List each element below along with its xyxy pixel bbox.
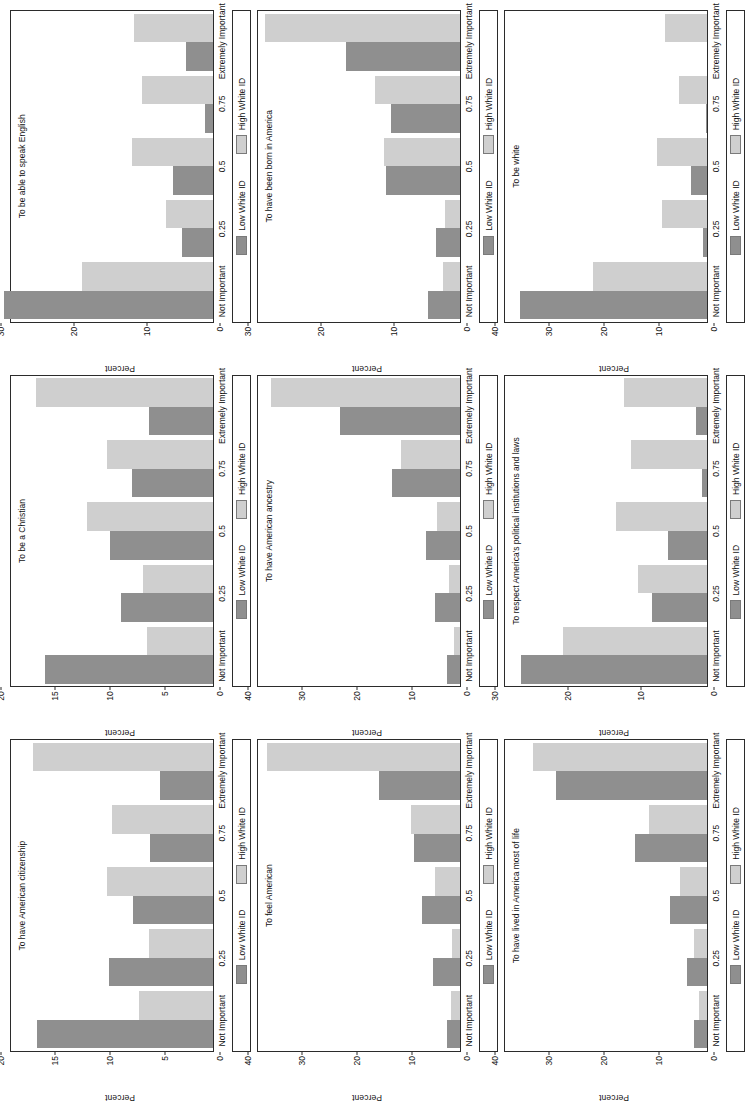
y-tick-label: 20 bbox=[0, 1052, 6, 1065]
bar-series-container bbox=[11, 376, 213, 687]
x-tick-cell: 0.5 bbox=[461, 500, 476, 563]
bar-low-white-id bbox=[391, 104, 460, 133]
bar-high-white-id bbox=[411, 805, 460, 834]
plot-column: To respect America's political instituti… bbox=[504, 375, 723, 688]
x-tick-cell: 0.5 bbox=[214, 864, 229, 927]
panel-body: Percent0102030To respect America's polit… bbox=[504, 375, 723, 728]
x-tick-label: 0.5 bbox=[217, 525, 227, 537]
y-tick-label: 30 bbox=[297, 687, 307, 700]
legend-swatch-high bbox=[236, 135, 247, 154]
y-tick-list: 010203040 bbox=[504, 1052, 723, 1084]
x-tick-label: Not Important bbox=[711, 995, 721, 1047]
y-tick-label: 10 bbox=[636, 687, 646, 700]
x-tick-label: 0.5 bbox=[217, 160, 227, 172]
x-tick-label: 0.5 bbox=[464, 160, 474, 172]
chart-panel: Percent010203040To feel AmericanNot Impo… bbox=[253, 733, 500, 1098]
x-tick-cell: 0.25 bbox=[214, 198, 229, 261]
x-tick-cell: 0.25 bbox=[214, 562, 229, 625]
bar-low-white-id bbox=[414, 834, 460, 863]
x-tick-label: Not Important bbox=[464, 630, 474, 682]
chart-panel: Percent010203040To have American ancestr… bbox=[253, 369, 500, 734]
y-tick-label: 0 bbox=[215, 1052, 225, 1061]
x-tick-label: 0.75 bbox=[464, 96, 474, 113]
bar-group bbox=[11, 260, 213, 322]
y-tick-label: 0 bbox=[709, 1052, 719, 1061]
bar-group bbox=[258, 562, 460, 624]
panel-legend: Low White IDHigh White ID bbox=[232, 10, 251, 323]
legend-swatch-high bbox=[483, 865, 494, 884]
bar-series-container bbox=[11, 11, 213, 322]
bar-group bbox=[11, 865, 213, 927]
y-tick-label: 40 bbox=[243, 1052, 253, 1065]
legend-item-high-white-id: High White ID bbox=[236, 78, 247, 154]
x-tick-cell: Not Important bbox=[461, 625, 476, 688]
panel-legend: Low White IDHigh White ID bbox=[726, 739, 745, 1052]
x-tick-label: 0.25 bbox=[464, 221, 474, 238]
x-tick-cell: 0.25 bbox=[708, 927, 723, 990]
legend-swatch-low bbox=[730, 601, 741, 620]
x-tick-cell: 0.25 bbox=[708, 198, 723, 261]
x-axis: Not Important0.250.50.75Extremely Import… bbox=[461, 10, 476, 323]
x-tick-label: Extremely Important bbox=[217, 733, 227, 809]
plot-column: To be whiteNot Important0.250.50.75Extre… bbox=[504, 10, 723, 323]
bar-group bbox=[505, 803, 707, 865]
panel-legend: Low White IDHigh White ID bbox=[479, 375, 498, 688]
y-axis-label: Percent bbox=[105, 1093, 135, 1102]
legend-swatch-high bbox=[483, 500, 494, 519]
x-tick-label: 0.5 bbox=[217, 890, 227, 902]
x-tick-label: Extremely Important bbox=[464, 368, 474, 444]
legend-label: High White ID bbox=[731, 443, 741, 495]
x-tick-label: 0.75 bbox=[217, 96, 227, 113]
x-tick-label: 0.25 bbox=[217, 950, 227, 967]
x-tick-cell: 0.75 bbox=[214, 802, 229, 865]
bar-high-white-id bbox=[267, 743, 460, 772]
bar-low-white-id bbox=[436, 228, 460, 257]
panel-body: Percent010203040To have lived in America… bbox=[504, 739, 723, 1092]
bar-high-white-id bbox=[631, 440, 707, 469]
x-tick-cell: Extremely Important bbox=[461, 375, 476, 438]
legend-swatch-low bbox=[236, 236, 247, 255]
y-axis: Percent0102030 bbox=[257, 323, 476, 363]
bar-low-white-id bbox=[392, 469, 460, 498]
y-tick-label: 10 bbox=[407, 687, 417, 700]
panel-legend: Low White IDHigh White ID bbox=[232, 739, 251, 1052]
bar-high-white-id bbox=[132, 138, 213, 167]
y-tick-list: 0102030 bbox=[504, 687, 723, 719]
panel-legend: Low White IDHigh White ID bbox=[232, 375, 251, 688]
x-tick-cell: Not Important bbox=[708, 625, 723, 688]
legend-label: High White ID bbox=[484, 78, 494, 130]
bar-low-white-id bbox=[447, 655, 460, 684]
bar-group bbox=[505, 197, 707, 259]
bar-high-white-id bbox=[699, 991, 707, 1020]
bar-high-white-id bbox=[649, 805, 707, 834]
legend-label: High White ID bbox=[731, 807, 741, 859]
bar-low-white-id bbox=[428, 291, 460, 320]
bar-high-white-id bbox=[454, 627, 460, 656]
plot-column: To be a ChristianNot Important0.250.50.7… bbox=[10, 375, 229, 688]
bar-group bbox=[11, 135, 213, 197]
bar-group bbox=[505, 865, 707, 927]
legend-item-high-white-id: High White ID bbox=[236, 443, 247, 519]
bar-group bbox=[505, 989, 707, 1051]
x-tick-cell: 0.5 bbox=[708, 864, 723, 927]
y-tick-label: 5 bbox=[160, 687, 170, 696]
x-tick-label: 0.75 bbox=[217, 460, 227, 477]
legend-label: High White ID bbox=[731, 78, 741, 130]
bar-high-white-id bbox=[143, 565, 213, 594]
legend-swatch-low bbox=[730, 965, 741, 984]
chart-panel: Percent010203040To be whiteNot Important… bbox=[500, 4, 747, 369]
bar-low-white-id bbox=[340, 407, 460, 436]
x-tick-cell: 0.75 bbox=[214, 73, 229, 136]
x-tick-cell: Extremely Important bbox=[461, 739, 476, 802]
y-axis-label: Percent bbox=[352, 728, 382, 738]
bar-low-white-id bbox=[110, 531, 213, 560]
legend-swatch-high bbox=[483, 135, 494, 154]
x-tick-label: 0.25 bbox=[217, 221, 227, 238]
y-axis-label: Percent bbox=[352, 1093, 382, 1102]
chart-panel: Percent010203040To have lived in America… bbox=[500, 733, 747, 1098]
y-tick-list: 0102030 bbox=[10, 323, 229, 355]
y-axis-label: Percent bbox=[599, 1093, 629, 1102]
legend-item-low-white-id: Low White ID bbox=[483, 910, 494, 985]
legend-label: Low White ID bbox=[731, 910, 741, 961]
y-tick-label: 40 bbox=[490, 323, 500, 336]
